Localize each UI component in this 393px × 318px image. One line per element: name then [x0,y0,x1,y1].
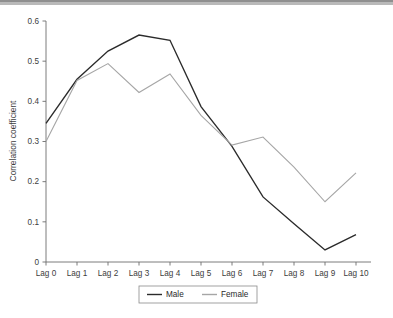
figure-canvas: 0.60.50.40.30.20.10 Lag 0Lag 1Lag 2Lag 3… [0,0,393,318]
x-tick-label: Lag 1 [67,269,88,278]
x-tick-label: Lag 8 [284,269,305,278]
series-line-female [46,64,356,202]
y-axis-ticks: 0.60.50.40.30.20.10 [28,17,46,267]
x-tick-label: Lag 3 [129,269,150,278]
x-tick-label: Lag 0 [36,269,57,278]
x-tick-label: Lag 2 [98,269,119,278]
chart-legend: MaleFemale [139,286,257,303]
line-chart: 0.60.50.40.30.20.10 Lag 0Lag 1Lag 2Lag 3… [0,0,393,318]
y-axis-title: Correlation coefficient [8,100,18,182]
series-line-male [46,35,356,250]
x-tick-label: Lag 7 [253,269,274,278]
y-tick-label: 0.6 [28,17,40,26]
legend-label-male: Male [166,290,184,299]
x-tick-label: Lag 6 [222,269,243,278]
y-tick-label: 0.3 [28,137,40,146]
y-tick-label: 0.5 [28,57,40,66]
x-tick-label: Lag 4 [160,269,181,278]
y-tick-label: 0.2 [28,177,40,186]
y-tick-label: 0.4 [28,97,40,106]
x-tick-label: Lag 9 [315,269,336,278]
y-tick-label: 0.1 [28,218,40,227]
y-tick-label: 0 [34,258,39,267]
x-tick-label: Lag 5 [191,269,212,278]
legend-label-female: Female [221,290,249,299]
x-tick-label: Lag 10 [343,269,368,278]
x-axis-ticks: Lag 0Lag 1Lag 2Lag 3Lag 4Lag 5Lag 6Lag 7… [36,262,369,278]
data-series-group [46,35,356,250]
